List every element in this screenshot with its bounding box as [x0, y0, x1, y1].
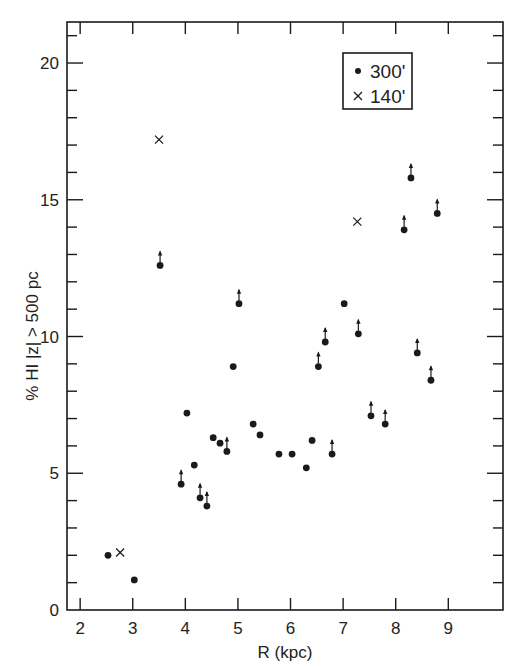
data-point-140 — [116, 549, 124, 557]
data-point-300 — [203, 503, 210, 510]
data-point-300 — [257, 432, 264, 439]
x-tick-label: 4 — [181, 619, 190, 638]
data-points — [105, 136, 441, 584]
data-point-300 — [105, 552, 112, 559]
x-tick-label: 5 — [233, 619, 242, 638]
arrowhead-icon — [158, 250, 162, 255]
plot-frame — [67, 22, 503, 610]
y-tick-label: 20 — [40, 54, 59, 73]
x-tick-label: 7 — [338, 619, 347, 638]
data-point-300 — [355, 330, 362, 337]
arrowhead-icon — [383, 409, 387, 414]
arrowhead-icon — [429, 365, 433, 370]
x-axis-label: R (kpc) — [258, 643, 313, 662]
data-point-300 — [303, 464, 310, 471]
arrowhead-icon — [198, 483, 202, 488]
x-tick-label: 2 — [75, 619, 84, 638]
data-point-300 — [131, 577, 138, 584]
y-tick-label: 10 — [40, 328, 59, 347]
arrowhead-icon — [237, 289, 241, 294]
axis-ticks — [67, 22, 503, 610]
legend-dot-icon — [355, 68, 361, 74]
arrowhead-icon — [330, 439, 334, 444]
data-point-300 — [184, 410, 191, 417]
arrowhead-icon — [205, 491, 209, 496]
arrowhead-icon — [415, 338, 419, 343]
data-point-300 — [401, 226, 408, 233]
data-point-300 — [276, 451, 283, 458]
arrowhead-icon — [225, 436, 229, 441]
data-point-140 — [155, 136, 163, 144]
arrowhead-icon — [369, 401, 373, 406]
data-point-300 — [382, 421, 389, 428]
arrowhead-icon — [323, 327, 327, 332]
data-point-300 — [315, 363, 322, 370]
data-point-300 — [414, 350, 421, 357]
data-point-300 — [428, 377, 435, 384]
data-point-300 — [341, 300, 348, 307]
x-tick-label: 3 — [128, 619, 137, 638]
arrowhead-icon — [179, 469, 183, 474]
x-tick-label: 6 — [286, 619, 295, 638]
data-point-300 — [236, 300, 243, 307]
x-tick-label: 8 — [391, 619, 400, 638]
arrowhead-icon — [409, 163, 413, 168]
data-point-300 — [289, 451, 296, 458]
data-point-300 — [309, 437, 316, 444]
data-point-300 — [217, 440, 224, 447]
legend: 300' 140' — [343, 53, 412, 109]
data-point-300 — [250, 421, 257, 428]
y-tick-label: 0 — [50, 601, 59, 620]
data-point-300 — [434, 210, 441, 217]
tick-labels: 2345678905101520 — [40, 54, 453, 638]
data-point-300 — [210, 434, 217, 441]
arrowhead-icon — [435, 198, 439, 203]
legend-label-300: 300' — [370, 61, 405, 82]
y-tick-label: 5 — [50, 464, 59, 483]
data-point-300 — [223, 448, 230, 455]
data-point-140 — [353, 218, 361, 226]
y-axis-label: % HI |z| > 500 pc — [23, 271, 42, 401]
scatter-chart: 2345678905101520 R (kpc) % HI |z| > 500 … — [0, 0, 522, 667]
data-point-300 — [191, 462, 198, 469]
data-point-300 — [368, 412, 375, 419]
y-tick-label: 15 — [40, 191, 59, 210]
data-point-300 — [408, 174, 415, 181]
data-point-300 — [322, 339, 329, 346]
data-point-300 — [329, 451, 336, 458]
arrowhead-icon — [356, 319, 360, 324]
data-point-300 — [230, 363, 237, 370]
data-point-300 — [157, 262, 164, 269]
arrowhead-icon — [316, 352, 320, 357]
data-point-300 — [197, 494, 204, 501]
data-point-300 — [178, 481, 185, 488]
arrowhead-icon — [402, 215, 406, 220]
legend-label-140: 140' — [370, 86, 405, 107]
x-tick-label: 9 — [444, 619, 453, 638]
